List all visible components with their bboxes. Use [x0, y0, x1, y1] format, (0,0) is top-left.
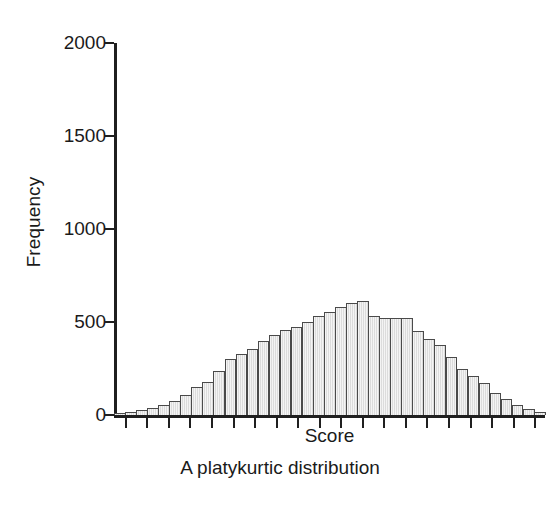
histogram-bar: [324, 312, 336, 415]
histogram-bar: [302, 322, 314, 415]
histogram-bar: [280, 330, 292, 415]
histogram-bars: [114, 43, 545, 415]
y-axis-tick-label: 2000: [48, 33, 106, 52]
histogram-bar: [335, 307, 347, 415]
histogram-bar: [225, 359, 237, 415]
y-axis-tick-mark: [105, 321, 114, 323]
y-axis-tick-label: 0: [48, 405, 106, 424]
histogram-bar: [390, 318, 402, 415]
histogram-bar: [357, 301, 369, 415]
histogram-bar: [412, 331, 424, 415]
histogram-bar: [158, 405, 170, 415]
y-axis-tick-mark: [105, 135, 114, 137]
histogram-bar: [180, 395, 192, 415]
y-axis-tick-label: 500: [48, 312, 106, 331]
histogram-bar: [313, 316, 325, 415]
histogram-bar: [434, 345, 446, 415]
y-axis-tick-mark: [105, 228, 114, 230]
figure-caption: A platykurtic distribution: [0, 457, 560, 479]
histogram-bar: [125, 412, 137, 415]
histogram-bar: [534, 412, 546, 415]
histogram-bar: [501, 399, 513, 415]
histogram-bar: [479, 383, 491, 415]
histogram-bar: [457, 369, 469, 416]
histogram-bar: [136, 410, 148, 415]
histogram-bar: [236, 354, 248, 415]
y-axis-tick-label: 1000: [48, 219, 106, 238]
y-axis-tick-label: 1500: [48, 126, 106, 145]
histogram-bar: [401, 318, 413, 415]
y-axis-tick-mark: [105, 42, 114, 44]
y-axis-tick-labels: 0500100015002000: [48, 0, 106, 513]
histogram-bar: [368, 316, 380, 415]
histogram-bar: [468, 376, 480, 415]
histogram-bar: [202, 382, 214, 415]
histogram-bar: [446, 357, 458, 415]
y-axis-label: Frequency: [22, 12, 46, 432]
histogram-bar: [169, 401, 181, 416]
histogram-bar: [114, 413, 126, 415]
histogram-bar: [512, 405, 524, 415]
chart-figure: Frequency 0500100015002000 Score A platy…: [0, 0, 560, 513]
histogram-bar: [213, 371, 225, 415]
histogram-bar: [523, 409, 535, 415]
histogram-bar: [379, 318, 391, 415]
x-axis-label: Score: [114, 425, 545, 447]
histogram-bar: [423, 339, 435, 415]
x-axis-line: [114, 415, 545, 418]
histogram-bar: [490, 393, 502, 415]
histogram-bar: [191, 387, 203, 415]
histogram-bar: [291, 327, 303, 415]
histogram-bar: [269, 335, 281, 415]
y-axis-tick-mark: [105, 414, 114, 416]
histogram-bar: [247, 349, 259, 415]
plot-area: [114, 43, 545, 415]
histogram-bar: [258, 341, 270, 415]
histogram-bar: [147, 408, 159, 415]
histogram-bar: [346, 303, 358, 415]
